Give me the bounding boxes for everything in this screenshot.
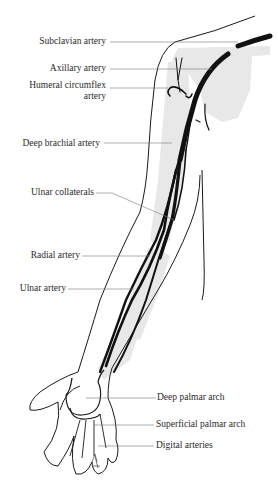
deep-palmar-arch: [66, 382, 101, 415]
digital-arteries: [70, 414, 106, 458]
label-axillary-artery: Axillary artery: [50, 63, 106, 74]
label-digital-arteries: Digital arteries: [156, 440, 213, 451]
hand-arteries: [66, 370, 106, 458]
label-ulnar-collaterals: Ulnar collaterals: [31, 187, 94, 198]
label-radial-artery: Radial artery: [31, 250, 80, 261]
label-humeral-circumflex-artery-line2: artery: [84, 91, 106, 102]
label-ulnar-artery: Ulnar artery: [20, 283, 66, 294]
label-humeral-circumflex-artery: Humeral circumflex: [29, 80, 106, 91]
subclavian-artery: [238, 36, 270, 46]
label-deep-brachial-artery: Deep brachial artery: [22, 138, 100, 149]
artery-diagram: Subclavian artery Axillary artery Humera…: [0, 0, 278, 492]
label-subclavian-artery: Subclavian artery: [39, 36, 106, 47]
label-deep-palmar-arch: Deep palmar arch: [157, 392, 225, 403]
bone-shading: [98, 46, 270, 380]
label-superficial-palmar-arch: Superficial palmar arch: [156, 419, 245, 430]
artist-signature: [92, 454, 100, 468]
